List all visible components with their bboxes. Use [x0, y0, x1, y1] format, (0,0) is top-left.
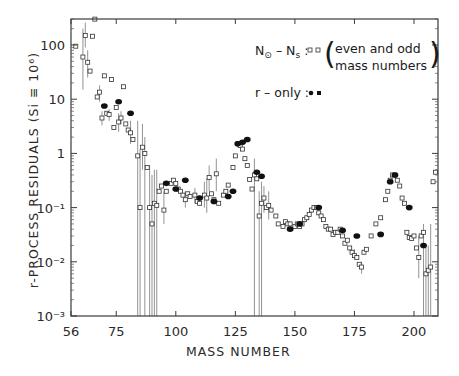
- legend-note-line1: even and odd: [335, 41, 421, 56]
- data-point-open-square: [386, 189, 390, 193]
- data-point-open-square: [100, 116, 104, 120]
- data-point-open-square: [136, 154, 140, 158]
- data-point-open-square: [398, 184, 402, 188]
- legend-filled-square-marker: [317, 91, 321, 95]
- legend-paren-open: (: [324, 36, 336, 71]
- data-point-filled-circle: [339, 228, 346, 234]
- data-point-open-square: [102, 74, 106, 78]
- data-point-open-square: [281, 224, 285, 228]
- data-point-open-square: [121, 85, 125, 89]
- x-tick-label: 200: [402, 324, 427, 339]
- data-point-open-square: [183, 198, 187, 202]
- y-axis-title: r-PROCESS RESIDUALS (Si ≡ 10⁶): [26, 52, 41, 288]
- data-point-filled-circle: [163, 181, 170, 187]
- data-point-open-square: [250, 187, 254, 191]
- data-point-filled-circle: [211, 199, 218, 205]
- data-point-open-square: [412, 234, 416, 238]
- data-point-open-square: [241, 147, 245, 151]
- data-point-open-square: [188, 195, 192, 199]
- data-point-open-square: [329, 227, 333, 231]
- data-point-open-square: [210, 192, 214, 196]
- data-point-open-square: [150, 222, 154, 226]
- data-point-filled-circle: [182, 177, 189, 183]
- x-axis-title: MASS NUMBER: [186, 344, 291, 359]
- data-point-open-square: [174, 181, 178, 185]
- y-tick-label: 1: [57, 146, 65, 161]
- data-point-open-square: [145, 165, 149, 169]
- data-point-open-square: [205, 196, 209, 200]
- x-tick-labels: 5675100125150175200: [63, 324, 427, 339]
- data-point-open-square: [288, 222, 292, 226]
- x-tick-label: 100: [163, 324, 188, 339]
- data-point-filled-circle: [115, 99, 122, 105]
- legend-label-r-only: r – only :: [255, 85, 309, 100]
- data-point-open-square: [179, 189, 183, 193]
- data-point-open-square: [431, 180, 435, 184]
- data-point-open-square: [198, 201, 202, 205]
- data-point-open-square: [181, 193, 185, 197]
- data-point-open-square: [140, 145, 144, 149]
- data-point-open-square: [414, 246, 418, 250]
- data-point-open-square: [217, 201, 221, 205]
- data-point-open-square: [417, 256, 421, 260]
- data-point-open-square: [369, 234, 373, 238]
- data-point-open-square: [233, 154, 237, 158]
- data-point-open-square: [248, 177, 252, 181]
- data-point-open-square: [307, 212, 311, 216]
- data-point-open-square: [119, 116, 123, 120]
- data-point-filled-circle: [172, 186, 179, 192]
- x-tick-label: 56: [63, 324, 80, 339]
- data-point-open-square: [255, 177, 259, 181]
- x-tick-label: 150: [282, 324, 307, 339]
- chart-figure: 5675100125150175200 10010110⁻¹10⁻²10⁻³ M…: [0, 0, 459, 376]
- legend-label-solar-minus-s: N⊙ – Ns :: [255, 43, 308, 60]
- data-point-open-square: [276, 222, 280, 226]
- data-point-filled-circle: [315, 205, 322, 211]
- x-tick-label: 175: [342, 324, 367, 339]
- data-point-open-square: [90, 34, 94, 38]
- data-point-filled-circle: [420, 243, 427, 249]
- data-point-filled-circle: [101, 103, 108, 109]
- data-point-filled-circle: [244, 137, 251, 143]
- data-point-open-square: [124, 122, 128, 126]
- data-point-open-square: [383, 198, 387, 202]
- legend-paren-close: ): [429, 36, 441, 71]
- data-point-open-square: [155, 203, 159, 207]
- data-point-filled-circle: [392, 172, 399, 178]
- data-point-open-square: [98, 90, 102, 94]
- data-point-open-square: [433, 170, 437, 174]
- legend: N⊙ – Ns : ( even and odd mass numbers ) …: [255, 36, 441, 100]
- data-point-open-square: [148, 206, 152, 210]
- x-tick-label: 125: [223, 324, 248, 339]
- data-point-open-square: [269, 208, 273, 212]
- data-point-open-square: [379, 216, 383, 220]
- data-point-open-square: [114, 106, 118, 110]
- data-point-filled-circle: [406, 205, 413, 211]
- data-point-open-square: [224, 189, 228, 193]
- data-point-open-square: [107, 113, 111, 117]
- legend-open-square-marker: [316, 48, 320, 52]
- data-point-open-square: [260, 201, 264, 205]
- data-point-open-square: [405, 230, 409, 234]
- data-point-open-square: [429, 265, 433, 269]
- data-point-open-square: [193, 193, 197, 197]
- data-point-filled-circle: [377, 232, 384, 238]
- y-tick-label: 10: [48, 92, 65, 107]
- data-point-open-square: [402, 201, 406, 205]
- data-point-open-square: [81, 55, 85, 59]
- data-point-open-square: [157, 189, 161, 193]
- data-point-open-square: [257, 214, 261, 218]
- data-point-open-square: [364, 247, 368, 251]
- data-point-open-square: [138, 206, 142, 210]
- data-point-open-square: [88, 69, 92, 73]
- data-point-open-square: [214, 172, 218, 176]
- data-point-open-square: [86, 60, 90, 64]
- data-point-open-square: [83, 33, 87, 37]
- data-point-open-square: [95, 95, 99, 99]
- data-point-open-square: [112, 126, 116, 130]
- data-point-open-square: [226, 183, 230, 187]
- data-point-open-square: [129, 131, 133, 135]
- data-point-open-square: [164, 189, 168, 193]
- data-point-open-square: [143, 151, 147, 155]
- data-point-open-square: [262, 196, 266, 200]
